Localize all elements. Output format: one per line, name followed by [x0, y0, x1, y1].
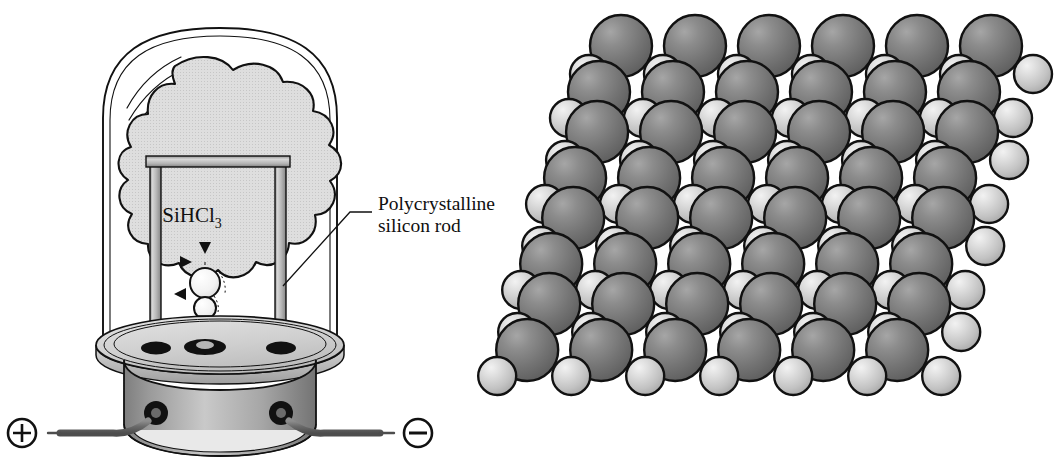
- rod-socket: [141, 342, 171, 355]
- lattice-atom-group: [478, 15, 1052, 395]
- small-atom: [848, 357, 886, 395]
- negative-electrode-terminal: [404, 419, 432, 447]
- small-atom: [970, 185, 1008, 223]
- small-atom: [552, 357, 590, 395]
- positive-electrode-terminal: [8, 419, 36, 447]
- small-atom: [946, 271, 984, 309]
- small-atom: [922, 357, 960, 395]
- crystal-lattice-model: [527, 0, 1054, 475]
- small-atom: [774, 357, 812, 395]
- small-atom: [966, 227, 1004, 265]
- gas-species-label: SiHCl3: [162, 203, 222, 231]
- reactor-diagram: SiHCl3 Polycrystalline silicon rod: [0, 0, 527, 475]
- small-atom: [990, 141, 1028, 179]
- reactor-panel: SiHCl3 Polycrystalline silicon rod: [0, 0, 527, 475]
- lattice-panel: [527, 0, 1054, 475]
- small-atom: [626, 357, 664, 395]
- small-atom: [478, 357, 516, 395]
- small-atom: [942, 313, 980, 351]
- small-atom: [1014, 55, 1052, 93]
- small-atom: [994, 99, 1032, 137]
- rod-socket: [266, 342, 296, 355]
- small-atom: [700, 357, 738, 395]
- callout-label: Polycrystalline silicon rod: [378, 193, 500, 236]
- figure-root: SiHCl3 Polycrystalline silicon rod: [0, 0, 1054, 475]
